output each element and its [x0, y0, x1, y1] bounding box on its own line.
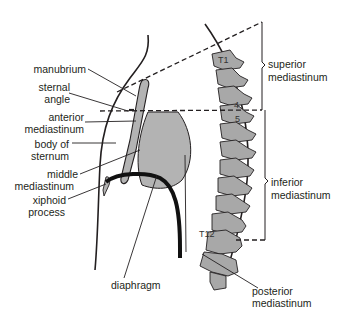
label-superior-mediastinum-line2: mediastinum	[268, 71, 328, 83]
vertebra-label-t4: 4	[234, 100, 239, 110]
mediastinum-diagram: T1 4 5 T12 manubrium sternal angle anter…	[0, 0, 344, 317]
leader-anterior-mediastinum	[85, 121, 136, 122]
label-inferior-mediastinum-line1: inferior	[271, 176, 303, 188]
diaphragm	[106, 174, 180, 258]
label-manubrium: manubrium	[33, 63, 86, 75]
label-xiphoid-process-line1: xiphoid	[33, 194, 66, 206]
superior-mediastinum-bracket	[262, 22, 265, 110]
label-inferior-mediastinum-line2: mediastinum	[271, 189, 331, 201]
label-posterior-mediastinum-line2: mediastinum	[252, 297, 312, 309]
label-sternal-angle-line1: sternal	[38, 81, 70, 93]
leader-diaphragm	[124, 175, 157, 278]
label-anterior-mediastinum-line1: anterior	[48, 111, 84, 123]
label-sternal-angle-line2: angle	[44, 93, 70, 105]
label-anterior-mediastinum-line2: mediastinum	[24, 123, 84, 135]
vertebral-column	[200, 50, 256, 290]
middle-mediastinum-region	[138, 112, 191, 188]
label-superior-mediastinum-line1: superior	[268, 58, 306, 70]
label-middle-mediastinum-line1: middle	[47, 168, 78, 180]
label-posterior-mediastinum-line1: posterior	[252, 285, 293, 297]
label-diaphragm: diaphragm	[111, 279, 161, 291]
label-xiphoid-process-line2: process	[28, 206, 65, 218]
vertebra-label-t1: T1	[218, 55, 229, 65]
inferior-mediastinum-bracket	[265, 110, 268, 240]
label-body-of-sternum-line2: sternum	[31, 150, 69, 162]
label-body-of-sternum-line1: body of	[35, 138, 69, 150]
label-middle-mediastinum-line2: mediastinum	[14, 180, 74, 192]
vertebra-label-t5: 5	[235, 114, 240, 124]
leader-manubrium	[88, 69, 136, 96]
vertebra-label-t12: T12	[199, 229, 215, 239]
